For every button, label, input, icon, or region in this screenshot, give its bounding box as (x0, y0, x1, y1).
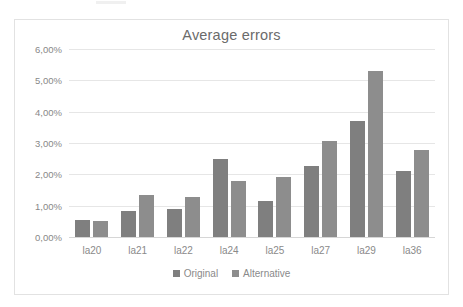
x-axis-tick-label-la24: la24 (206, 245, 252, 256)
bar-la24-original (213, 159, 228, 237)
legend-label: Alternative (243, 268, 290, 279)
x-axis-tick-label-la29: la29 (344, 245, 390, 256)
legend-swatch-icon-original (173, 270, 180, 277)
bar-la25-alternative (276, 177, 291, 237)
bar-la25-original (258, 201, 273, 237)
plot-area: 0,00%1,00%2,00%3,00%4,00%5,00%6,00% la20… (69, 49, 435, 237)
bar-group-la36: la36 (389, 49, 435, 237)
bar-group-la24: la24 (206, 49, 252, 237)
chart-container: Average errors 0,00%1,00%2,00%3,00%4,00%… (14, 19, 449, 295)
bar-la27-original (304, 166, 319, 237)
y-axis-tick-label: 6,00% (35, 44, 62, 55)
bar-group-la20: la20 (69, 49, 115, 237)
chart-title: Average errors (15, 27, 448, 43)
bar-la29-original (350, 121, 365, 237)
x-axis-tick-label-la27: la27 (298, 245, 344, 256)
x-axis-tick-label-la21: la21 (115, 245, 161, 256)
bar-la27-alternative (322, 141, 337, 237)
legend-item-original[interactable]: Original (173, 268, 218, 279)
x-axis-tick-label-la22: la22 (161, 245, 207, 256)
bar-group-la22: la22 (161, 49, 207, 237)
legend-swatch-icon-alternative (232, 270, 239, 277)
y-axis-tick-label: 0,00% (35, 232, 62, 243)
y-axis-tick-label: 4,00% (35, 106, 62, 117)
bar-series-group: la20la21la22la24la25la27la29la36 (69, 49, 435, 237)
x-axis-tick-label-la20: la20 (69, 245, 115, 256)
y-axis-tick-label: 5,00% (35, 75, 62, 86)
bar-la21-alternative (139, 195, 154, 237)
bar-group-la27: la27 (298, 49, 344, 237)
y-axis-tick-label: 3,00% (35, 138, 62, 149)
legend-label: Original (184, 268, 218, 279)
bar-la22-alternative (185, 197, 200, 237)
bar-group-la25: la25 (252, 49, 298, 237)
bar-la36-alternative (414, 150, 429, 237)
bar-la20-original (75, 220, 90, 237)
bar-group-la21: la21 (115, 49, 161, 237)
bar-la36-original (396, 171, 411, 237)
y-axis-tick-label: 2,00% (35, 169, 62, 180)
bar-la20-alternative (93, 221, 108, 237)
bar-la21-original (121, 211, 136, 237)
chart-legend: OriginalAlternative (15, 268, 448, 279)
bar-group-la29: la29 (344, 49, 390, 237)
legend-item-alternative[interactable]: Alternative (232, 268, 290, 279)
x-axis-tick-label-la25: la25 (252, 245, 298, 256)
bar-la29-alternative (368, 71, 383, 237)
clipped-text-artifact (96, 1, 126, 4)
y-axis-tick-label: 1,00% (35, 200, 62, 211)
gridline-0,00%: 0,00% (69, 237, 435, 238)
x-axis-tick-label-la36: la36 (389, 245, 435, 256)
bar-la22-original (167, 209, 182, 237)
bar-la24-alternative (231, 181, 246, 237)
